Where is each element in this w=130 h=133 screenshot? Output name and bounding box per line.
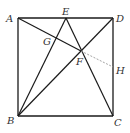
inner-segments — [18, 18, 113, 116]
segment-be — [18, 18, 66, 116]
label-a: A — [5, 13, 13, 24]
label-f: F — [75, 56, 84, 67]
geometry-diagram: A E D G F H B C — [0, 0, 130, 133]
label-b: B — [6, 115, 14, 126]
segment-ec — [66, 18, 113, 116]
label-c: C — [114, 117, 122, 128]
segment-bd — [18, 18, 113, 116]
label-h: H — [115, 65, 125, 76]
label-g: G — [43, 36, 51, 47]
label-d: D — [115, 13, 124, 24]
label-e: E — [61, 6, 70, 17]
